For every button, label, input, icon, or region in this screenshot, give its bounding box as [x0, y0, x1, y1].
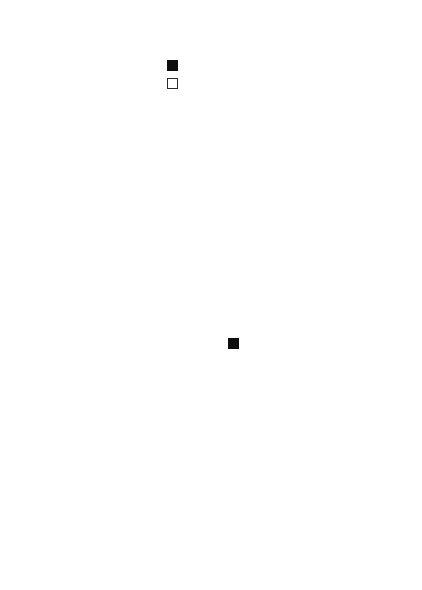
legend-pseudophyllideans — [228, 330, 248, 356]
panel-pseudophyllideans — [0, 286, 422, 590]
legend-item-poikilothermic-bottom — [228, 338, 248, 349]
legend-swatch-filled-icon — [167, 60, 178, 71]
chart-pseudophyllideans — [0, 286, 422, 590]
legend-item-poikilothermic-top — [167, 60, 187, 71]
figure-egg-diameter-histograms — [0, 0, 422, 590]
legend-cyclophyllideans — [167, 52, 187, 96]
figure-caption-partial — [0, 581, 422, 590]
legend-swatch-filled-icon — [228, 338, 239, 349]
legend-swatch-open-icon — [167, 78, 178, 89]
legend-item-homeothermic-top — [167, 78, 187, 89]
panel-cyclophyllideans — [0, 0, 422, 286]
chart-cyclophyllideans — [0, 0, 422, 286]
